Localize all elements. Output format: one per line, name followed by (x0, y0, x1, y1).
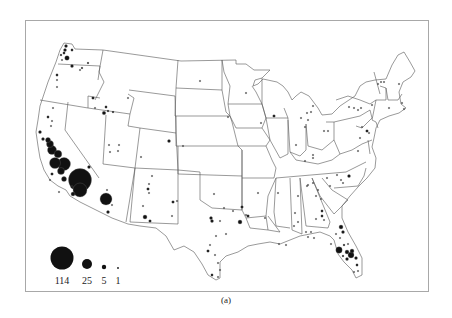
data-symbol (321, 215, 323, 217)
data-symbol (346, 258, 349, 261)
data-symbol (336, 174, 338, 176)
data-symbol (117, 150, 119, 152)
data-symbol (211, 274, 213, 276)
data-symbol (207, 250, 210, 253)
data-symbol (88, 166, 91, 169)
data-symbol (388, 107, 390, 109)
data-symbol (353, 271, 355, 273)
data-symbol (312, 154, 314, 156)
data-symbol (71, 192, 75, 196)
data-symbol (51, 120, 53, 122)
data-symbol (172, 201, 175, 204)
data-symbol (71, 186, 74, 189)
data-symbol (50, 158, 61, 169)
legend-symbol-25 (82, 259, 92, 269)
data-symbol (273, 115, 276, 118)
data-symbol (294, 212, 296, 214)
data-symbol (213, 193, 215, 195)
data-symbol (210, 217, 213, 220)
data-symbol (377, 83, 379, 85)
data-symbol (330, 243, 332, 245)
data-symbol (326, 177, 328, 179)
data-symbol (297, 221, 299, 223)
data-symbol (58, 168, 65, 175)
data-symbol (327, 130, 329, 132)
data-symbol (312, 182, 314, 184)
us-outline (36, 43, 415, 280)
data-symbol (277, 192, 279, 194)
legend-label: 25 (82, 275, 92, 286)
data-symbol (227, 116, 229, 118)
data-symbol (148, 192, 150, 194)
data-symbol (321, 210, 323, 212)
data-symbol (342, 231, 345, 234)
data-symbol (359, 137, 361, 139)
data-symbol (71, 49, 73, 51)
data-symbol (305, 231, 307, 233)
data-symbol (65, 45, 68, 48)
data-symbol (223, 207, 225, 209)
data-symbol (345, 250, 349, 254)
data-symbol (79, 69, 81, 71)
data-symbol (383, 81, 385, 83)
data-symbol (56, 86, 58, 88)
data-symbol (350, 249, 354, 253)
data-symbol (61, 59, 63, 61)
data-symbol (260, 122, 262, 124)
data-symbol (312, 105, 314, 107)
data-symbol (94, 107, 96, 109)
data-symbol (47, 116, 49, 118)
data-symbol (313, 237, 315, 239)
data-symbol (176, 200, 178, 202)
data-symbol (342, 255, 344, 257)
data-symbol (245, 92, 247, 94)
data-symbol (339, 225, 343, 229)
data-symbol (310, 111, 312, 113)
data-symbol (401, 102, 403, 104)
data-symbol (320, 198, 322, 200)
data-symbol (52, 107, 54, 109)
data-symbol (105, 106, 107, 108)
data-symbol (127, 97, 129, 99)
data-symbol (403, 108, 405, 110)
data-symbol (340, 179, 342, 181)
data-symbol (295, 144, 297, 146)
data-symbol (257, 192, 259, 194)
legend-symbol-114 (51, 247, 74, 270)
data-symbol (147, 188, 150, 191)
data-symbol (107, 211, 110, 214)
data-symbol (297, 195, 299, 197)
data-symbol (355, 257, 358, 260)
data-symbol (182, 145, 184, 147)
data-symbol (304, 126, 306, 128)
data-symbol (73, 183, 87, 197)
data-symbol (217, 276, 219, 278)
data-symbols (39, 45, 405, 278)
data-symbol (317, 189, 319, 191)
data-symbol (143, 215, 147, 219)
data-symbol (112, 111, 114, 113)
data-symbol (238, 220, 242, 224)
data-symbol (357, 109, 359, 111)
data-symbol (51, 173, 54, 176)
data-symbol (329, 185, 331, 187)
data-symbol (49, 179, 51, 181)
data-symbol (56, 74, 58, 76)
data-symbol (371, 104, 373, 106)
data-symbol (347, 243, 349, 245)
data-symbol (140, 156, 142, 158)
data-symbol (148, 183, 150, 185)
data-symbol (39, 131, 42, 134)
data-symbol (368, 132, 370, 134)
data-symbol (323, 130, 325, 132)
data-symbol (360, 107, 362, 109)
data-symbol (232, 210, 234, 212)
state-outlines (36, 43, 415, 280)
data-symbol (225, 233, 227, 235)
data-symbol (217, 262, 219, 264)
data-symbol (42, 138, 45, 141)
data-symbol (171, 215, 173, 217)
data-symbol (54, 150, 62, 158)
legend-label: 114 (55, 275, 70, 286)
data-symbol (211, 220, 214, 223)
